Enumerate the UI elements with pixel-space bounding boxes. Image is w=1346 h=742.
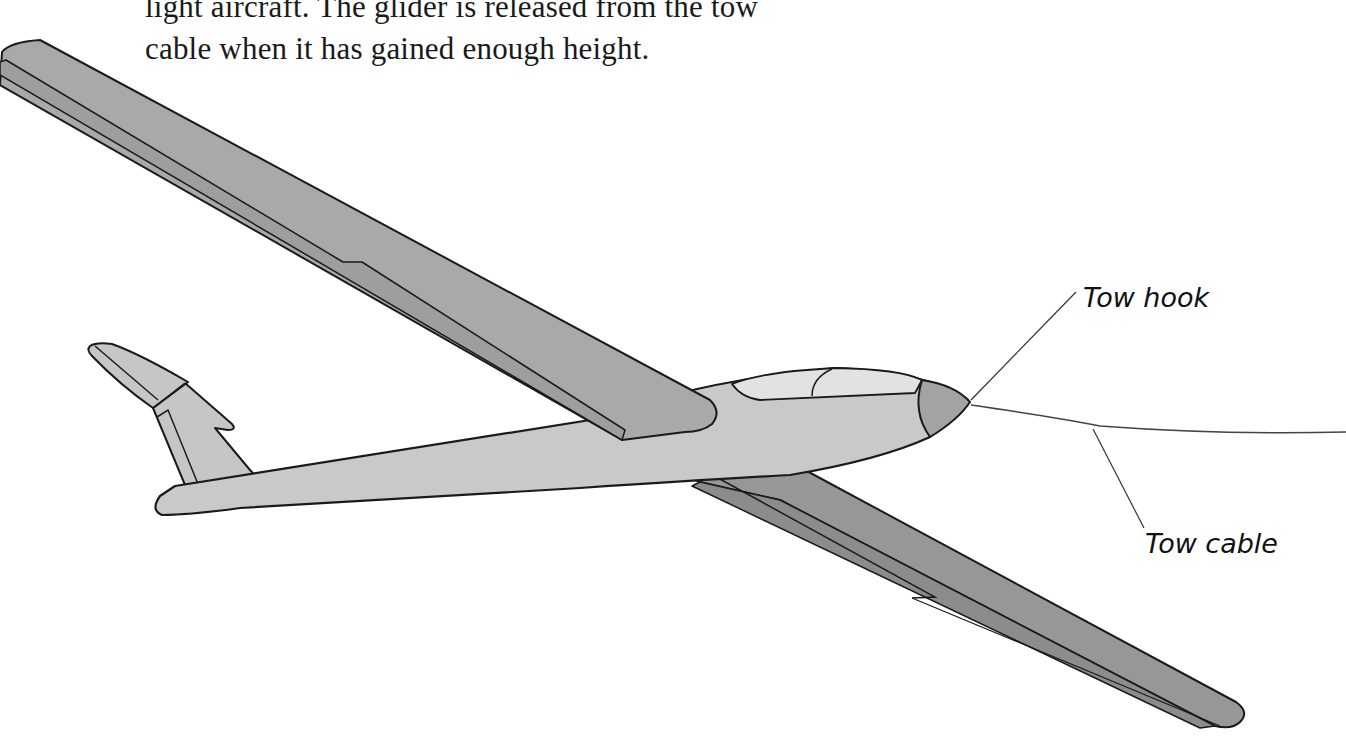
- tow-cable: [971, 405, 1346, 433]
- tow-hook-label: Tow hook: [1083, 282, 1209, 313]
- tow-cable-leader: [1093, 429, 1144, 528]
- tow-hook-leader: [971, 292, 1076, 400]
- tow-cable-label: Tow cable: [1145, 528, 1278, 559]
- upper-wing: [0, 40, 717, 440]
- lower-wing: [690, 470, 1244, 728]
- glider-illustration: [0, 0, 1346, 742]
- tail: [88, 343, 275, 485]
